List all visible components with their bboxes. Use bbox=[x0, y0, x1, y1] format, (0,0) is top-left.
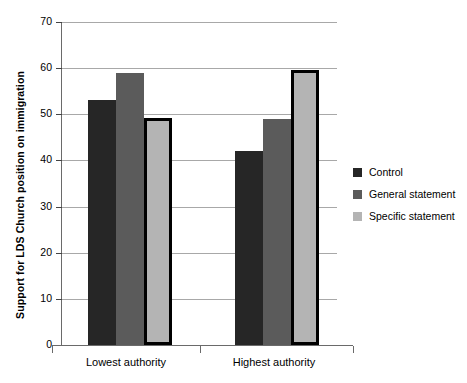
y-tick-label-20: 20 bbox=[14, 247, 52, 257]
legend-item-control: Control bbox=[353, 161, 455, 183]
y-tick-label-0: 0 bbox=[14, 339, 52, 349]
x-axis-label-highest-authority: Highest authority bbox=[204, 356, 344, 368]
legend-item-specific-statement: Specific statement bbox=[353, 205, 455, 227]
y-tick-label-30: 30 bbox=[14, 201, 52, 211]
legend-swatch-icon-specific-statement bbox=[353, 212, 362, 221]
plot-area bbox=[62, 22, 337, 345]
bar-highest-authority-general-statement bbox=[263, 119, 291, 345]
legend-label: Specific statement bbox=[369, 210, 455, 222]
y-tick-label-10: 10 bbox=[14, 293, 52, 303]
legend: ControlGeneral statementSpecific stateme… bbox=[353, 161, 455, 227]
legend-swatch-icon-general-statement bbox=[353, 190, 362, 199]
x-tick-2 bbox=[353, 346, 354, 353]
y-tick-label-60: 60 bbox=[14, 62, 52, 72]
x-axis-line bbox=[52, 345, 353, 346]
bar-lowest-authority-general-statement bbox=[116, 73, 144, 345]
y-tick-label-40: 40 bbox=[14, 154, 52, 164]
gridline-60 bbox=[62, 68, 337, 69]
legend-item-general-statement: General statement bbox=[353, 183, 455, 205]
bar-lowest-authority-control bbox=[88, 100, 116, 345]
x-tick-1 bbox=[200, 346, 201, 353]
gridline-70 bbox=[62, 22, 337, 23]
legend-swatch-icon-control bbox=[353, 168, 362, 177]
legend-label: General statement bbox=[369, 188, 455, 200]
legend-label: Control bbox=[369, 166, 403, 178]
bar-highest-authority-specific-statement bbox=[291, 70, 319, 345]
y-tick-label-50: 50 bbox=[14, 108, 52, 118]
bar-lowest-authority-specific-statement bbox=[144, 118, 172, 345]
x-tick-0 bbox=[52, 346, 53, 353]
x-axis-label-lowest-authority: Lowest authority bbox=[56, 356, 196, 368]
y-axis-title: Support for LDS Church position on immig… bbox=[14, 25, 34, 365]
y-tick-label-70: 70 bbox=[14, 16, 52, 26]
bar-chart-figure: Support for LDS Church position on immig… bbox=[0, 0, 467, 383]
bar-highest-authority-control bbox=[235, 151, 263, 345]
